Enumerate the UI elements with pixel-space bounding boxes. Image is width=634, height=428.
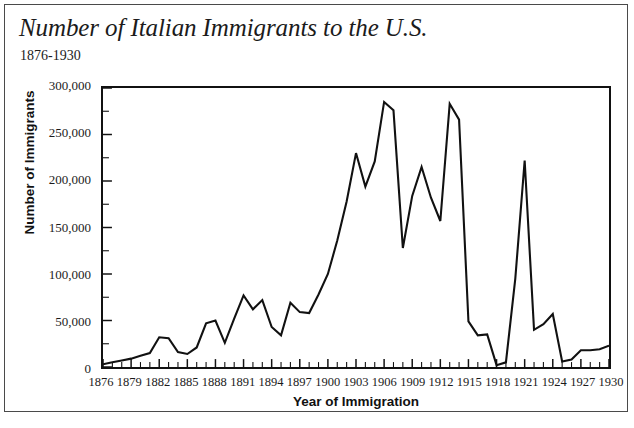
chart-title: Number of Italian Immigrants to the U.S. xyxy=(19,15,428,41)
x-tick-label: 1912 xyxy=(429,375,454,390)
chart-subtitle: 1876-1930 xyxy=(20,48,81,64)
x-tick-label: 1885 xyxy=(174,375,199,390)
figure-frame: Number of Italian Immigrants to the U.S.… xyxy=(4,4,628,412)
x-tick-label: 1903 xyxy=(344,375,369,390)
x-tick-label: 1927 xyxy=(570,375,595,390)
x-tick-label: 1930 xyxy=(599,375,624,390)
x-tick-label: 1897 xyxy=(287,375,312,390)
x-tick-label: 1891 xyxy=(230,375,255,390)
x-tick-label: 1915 xyxy=(457,375,482,390)
x-axis-tick-labels: 1876187918821885188818911894189719001903… xyxy=(101,375,611,393)
x-tick-label: 1876 xyxy=(89,375,114,390)
y-tick-label: 200,000 xyxy=(49,172,91,188)
x-tick-label: 1909 xyxy=(400,375,425,390)
x-tick-label: 1888 xyxy=(202,375,227,390)
y-tick-label: 150,000 xyxy=(49,220,91,236)
immigration-data-line xyxy=(103,102,609,365)
y-tick-label: 100,000 xyxy=(49,267,91,283)
x-tick-label: 1879 xyxy=(117,375,142,390)
x-tick-label: 1894 xyxy=(259,375,284,390)
x-tick-label: 1921 xyxy=(514,375,539,390)
x-axis-title: Year of Immigration xyxy=(101,394,611,409)
y-axis-tick-labels: 050,000100,000150,000200,000250,000300,0… xyxy=(5,86,97,369)
y-tick-label: 250,000 xyxy=(49,125,91,141)
y-tick-label: 50,000 xyxy=(55,314,91,330)
x-tick-label: 1918 xyxy=(485,375,510,390)
x-tick-label: 1906 xyxy=(372,375,397,390)
x-tick-label: 1882 xyxy=(145,375,170,390)
x-tick-label: 1924 xyxy=(542,375,567,390)
x-tick-label: 1900 xyxy=(315,375,340,390)
plot-area xyxy=(101,86,611,369)
y-tick-label: 300,000 xyxy=(49,78,91,94)
immigration-line-chart xyxy=(103,88,609,367)
